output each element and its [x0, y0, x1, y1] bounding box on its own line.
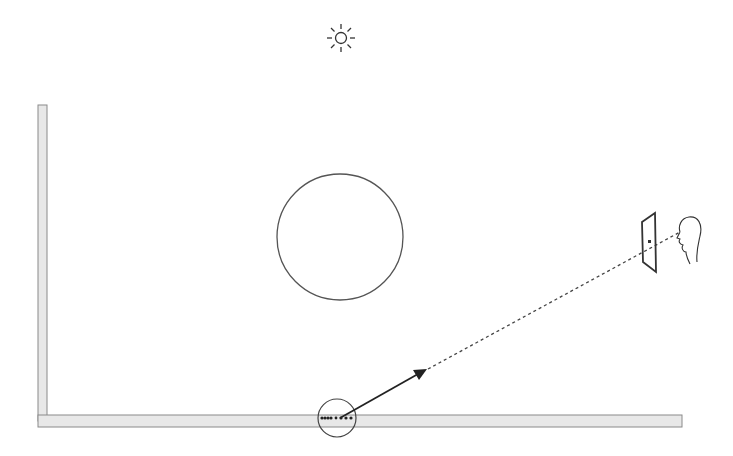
- sun-icon: [327, 24, 355, 52]
- pixel-marker: [648, 240, 651, 243]
- floor: [38, 415, 682, 427]
- wall: [38, 105, 47, 421]
- sphere: [277, 174, 403, 300]
- ray-tracing-diagram: [0, 0, 733, 456]
- arrowhead-icon: [413, 369, 427, 380]
- ray-arrow: [340, 374, 418, 418]
- viewer-head-icon: [677, 217, 701, 264]
